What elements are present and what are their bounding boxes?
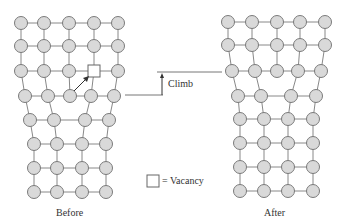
atom	[246, 39, 259, 52]
legend-label: = Vacancy	[162, 175, 204, 186]
atoms	[15, 16, 332, 199]
atom	[310, 90, 323, 103]
atom	[319, 16, 332, 29]
atom	[51, 138, 64, 151]
atom	[271, 65, 284, 78]
atom	[307, 137, 320, 150]
atom	[294, 16, 307, 29]
atom	[294, 39, 307, 52]
atom	[24, 114, 37, 127]
atom	[258, 137, 271, 150]
atom	[63, 65, 76, 78]
atom	[15, 65, 28, 78]
atom	[28, 138, 41, 151]
atom	[285, 90, 298, 103]
atom	[112, 65, 125, 78]
vacancy-square	[88, 65, 100, 77]
atom	[76, 186, 89, 199]
atom	[282, 185, 295, 198]
atom	[282, 137, 295, 150]
climb-label: Climb	[168, 78, 193, 89]
atom	[100, 138, 113, 151]
after-label: After	[264, 207, 285, 218]
atom	[234, 137, 247, 150]
atom	[246, 16, 259, 29]
atom	[292, 65, 305, 78]
atom	[63, 17, 76, 30]
atom	[76, 162, 89, 175]
atom	[319, 39, 332, 52]
vacancy-jump-arrow	[74, 79, 86, 91]
atom	[282, 113, 295, 126]
atom	[63, 40, 76, 53]
atom	[88, 17, 101, 30]
atom	[315, 65, 328, 78]
climb-arrowhead-icon	[160, 73, 164, 78]
atom	[258, 185, 271, 198]
atom	[249, 65, 262, 78]
before-label: Before	[56, 207, 83, 218]
atom	[51, 162, 64, 175]
atom	[307, 161, 320, 174]
atom	[15, 17, 28, 30]
atom	[271, 39, 284, 52]
atom	[232, 90, 245, 103]
atom	[48, 114, 61, 127]
atom	[64, 90, 77, 103]
legend-vacancy-square	[147, 175, 159, 187]
atom	[19, 90, 32, 103]
atom	[234, 185, 247, 198]
atom	[258, 113, 271, 126]
atom	[38, 17, 51, 30]
atom	[28, 162, 41, 175]
atom	[42, 90, 55, 103]
atom	[222, 39, 235, 52]
atom	[76, 138, 89, 151]
atom	[234, 161, 247, 174]
atom	[307, 185, 320, 198]
atom	[88, 40, 101, 53]
atom	[112, 17, 125, 30]
atom	[222, 16, 235, 29]
dislocation-climb-diagram	[0, 0, 341, 224]
atom	[307, 113, 320, 126]
atom	[100, 186, 113, 199]
atom	[271, 16, 284, 29]
atom	[15, 40, 28, 53]
atom	[226, 65, 239, 78]
atom	[112, 40, 125, 53]
atom	[255, 90, 268, 103]
atom	[258, 161, 271, 174]
atom	[108, 90, 121, 103]
atom	[51, 186, 64, 199]
atom	[28, 186, 41, 199]
atom	[282, 161, 295, 174]
atom	[100, 162, 113, 175]
atom	[103, 114, 116, 127]
atom	[85, 90, 98, 103]
atom	[38, 40, 51, 53]
atom	[38, 65, 51, 78]
atom	[234, 113, 247, 126]
atom	[79, 114, 92, 127]
